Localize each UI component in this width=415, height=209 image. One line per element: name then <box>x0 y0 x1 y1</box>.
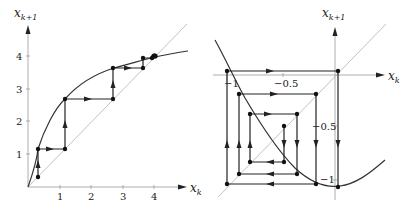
arrow-right-icon <box>46 147 54 152</box>
left-x-tick-4: 4 <box>151 191 157 202</box>
left-diagonal <box>28 24 187 187</box>
left-x-tick-2: 2 <box>88 191 94 202</box>
right-y-tick-neg1: −1 <box>320 174 335 185</box>
left-cobweb-arrows <box>36 66 133 169</box>
arrow-right-icon <box>264 112 272 117</box>
arrow-left-icon <box>266 160 274 165</box>
right-y-axis-arrow-icon <box>333 27 338 36</box>
right-y-axis-label: xk+1 <box>322 6 345 22</box>
arrow-left-icon <box>266 182 274 187</box>
left-function-curve <box>28 51 188 187</box>
arrow-right-icon <box>84 97 92 102</box>
left-y-tick-4: 4 <box>16 51 22 62</box>
arrow-down-icon <box>336 140 341 148</box>
left-x-axis-arrow-icon <box>178 185 187 190</box>
arrow-up-icon <box>225 140 230 148</box>
right-x-axis-label: xk <box>388 69 400 85</box>
left-x-axis-label: xk <box>190 181 202 197</box>
arrow-right-icon <box>266 69 274 74</box>
arrow-right-icon <box>124 66 132 71</box>
arrow-down-icon <box>295 140 300 148</box>
left-y-axis-arrow-icon <box>26 25 31 34</box>
left-panel: 1 2 3 4 1 2 3 4 xk xk+1 <box>14 6 202 202</box>
right-x-axis-arrow-icon <box>376 73 385 78</box>
left-x-tick-3: 3 <box>120 191 126 202</box>
arrow-down-icon <box>282 140 287 148</box>
left-y-axis-label: xk+1 <box>14 6 37 22</box>
cobweb-diagrams: 1 2 3 4 1 2 3 4 xk xk+1 <box>0 0 415 209</box>
left-y-tick-1: 1 <box>16 149 22 160</box>
right-diagonal <box>218 24 386 197</box>
left-x-tick-1: 1 <box>57 191 63 202</box>
arrow-up-icon <box>111 80 116 88</box>
arrow-right-icon <box>270 92 278 97</box>
arrow-up-icon <box>63 120 68 128</box>
right-x-tick-neg0-5: −0.5 <box>274 78 298 89</box>
left-y-tick-3: 3 <box>16 84 22 95</box>
right-x-tick-neg1: −1 <box>224 78 239 89</box>
left-y-tick-2: 2 <box>16 116 22 127</box>
arrow-up-icon <box>248 140 253 148</box>
right-panel: −1 −0.5 −0.5 −1 xk xk+1 <box>213 6 400 200</box>
arrow-left-icon <box>266 172 274 177</box>
arrow-down-icon <box>314 140 319 148</box>
arrow-up-icon <box>237 140 242 148</box>
